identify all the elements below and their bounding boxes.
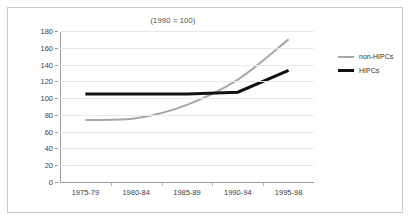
series-lines [60,31,314,182]
y-axis-tick [55,132,58,133]
grid-line [60,48,314,49]
grid-line [60,98,314,99]
y-axis-label: 20 [19,161,53,170]
legend-swatch-hipcs [338,69,354,72]
y-axis-tick [55,165,58,166]
grid-line [60,182,314,183]
y-axis-tick [55,148,58,149]
legend-label-non-hipcs: non-HIPCs [359,53,393,60]
x-axis-label: 1995-98 [259,188,319,197]
y-axis-label: 60 [19,127,53,136]
grid-line [60,132,314,133]
y-axis-tick [55,48,58,49]
grid-line [60,115,314,116]
series-line-non-hipcs [85,39,288,120]
y-axis-label: 0 [19,178,53,187]
y-axis-tick [55,115,58,116]
chart-figure: (1990 = 100) 180160140120100806040200 19… [7,7,403,213]
legend-item-hipcs: HIPCs [338,65,400,76]
chart-title: (1990 = 100) [8,16,338,25]
y-axis-label: 120 [19,77,53,86]
legend-swatch-non-hipcs [338,56,354,58]
x-axis-tick [162,183,163,186]
y-axis-tick [55,81,58,82]
y-axis-label: 180 [19,27,53,36]
y-axis-tick [55,98,58,99]
grid-line [60,31,314,32]
x-axis-tick [111,183,112,186]
grid-line [60,81,314,82]
legend-label-hipcs: HIPCs [359,67,379,74]
plot-area [60,31,314,182]
y-axis-tick [55,65,58,66]
grid-line [60,65,314,66]
y-axis-label: 140 [19,60,53,69]
y-axis-tick [55,182,58,183]
y-axis-label: 80 [19,110,53,119]
y-axis-label: 100 [19,94,53,103]
x-axis-tick [212,183,213,186]
grid-line [60,148,314,149]
y-axis-label: 40 [19,144,53,153]
chart-legend: non-HIPCs HIPCs [338,51,400,79]
x-axis-tick [263,183,264,186]
y-axis-tick [55,31,58,32]
legend-item-non-hipcs: non-HIPCs [338,51,400,62]
grid-line [60,165,314,166]
y-axis-label: 160 [19,43,53,52]
